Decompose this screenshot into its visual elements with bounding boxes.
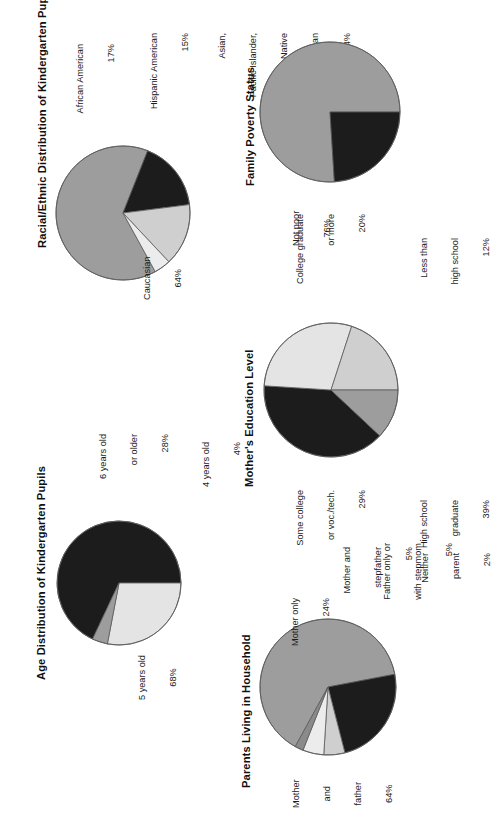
pie-label-mother-only-name: Mother only	[290, 598, 300, 672]
pie-label-mf-line3: father	[353, 779, 363, 808]
pie-mothers-education	[264, 323, 398, 457]
pie-label-6-years-line2: or older	[129, 434, 139, 512]
pie-label-np-line2: parent	[451, 553, 461, 617]
pie-label-np-value: 2%	[482, 553, 492, 617]
pie-label-below-poverty: Below poverty 24%	[392, 0, 495, 36]
chart-title-mothers-education: Mother's Education Level	[243, 350, 255, 487]
pie-label-some-college-line1: Some college	[295, 490, 305, 580]
pie-label-5-years-old-value: 68%	[168, 655, 178, 700]
pie-age-distribution	[57, 521, 181, 645]
pie-label-caucasian-value: 64%	[173, 257, 183, 300]
pie-label-4-years-old-value: 4%	[232, 442, 242, 512]
chart-title-parents-household: Parents Living in Household	[240, 634, 252, 788]
pie-label-hispanic-american-name: Hispanic American	[149, 33, 159, 137]
chart-title-family-poverty: Family Poverty Status	[244, 67, 256, 186]
pie-family-poverty	[260, 42, 400, 182]
pie-label-np-line1: Neither	[420, 553, 430, 617]
pie-label-6-years-value: 28%	[160, 434, 170, 512]
pie-slice-6-years-old-or-older	[107, 583, 181, 645]
pie-label-african-american: African American 17%	[54, 44, 137, 140]
pie-label-below-poverty-line2: poverty	[444, 0, 454, 36]
pie-label-6-years-or-older: 6 years old or older 28%	[77, 434, 191, 512]
pie-svg-mothers-education	[264, 323, 398, 457]
pie-label-mf-value: 64%	[384, 779, 394, 808]
pie-label-neither-parent: Neither parent 2%	[399, 553, 495, 617]
pie-label-mf-line1: Mother	[291, 779, 301, 808]
pie-label-college-graduate: College graduate or more 20%	[274, 214, 388, 318]
pie-svg-age-distribution	[57, 521, 181, 645]
pie-label-less-line1: Less than	[419, 238, 429, 318]
pie-label-caucasian: Caucasian 64%	[121, 257, 204, 300]
pie-label-african-american-name: African American	[75, 44, 85, 140]
pie-label-african-american-value: 17%	[106, 44, 116, 140]
pie-label-caucasian-name: Caucasian	[142, 257, 152, 300]
pie-label-fo-line1: Father only or	[382, 543, 392, 617]
pie-svg-family-poverty	[260, 42, 400, 182]
pie-label-college-value: 20%	[357, 214, 367, 318]
pie-label-ms-line1: Mother and	[342, 547, 352, 617]
pie-label-5-years-old-name: 5 years old	[137, 655, 147, 700]
pie-slice-below-poverty	[330, 112, 400, 182]
pie-label-asian-line1: Asian,	[217, 33, 227, 137]
chart-title-racial-ethnic: Racial/Ethnic Distribution of Kindergart…	[36, 0, 48, 248]
pie-label-5-years-old: 5 years old 68%	[116, 655, 199, 700]
pie-label-below-poverty-value: 24%	[475, 0, 485, 36]
pie-label-6-years-line1: 6 years old	[98, 434, 108, 512]
pie-label-mf-line2: and	[322, 779, 332, 808]
pie-label-mother-and-father: Mother and father 64%	[270, 779, 416, 808]
pie-label-less-line2: high school	[450, 238, 460, 318]
pie-label-below-poverty-line1: Below	[413, 0, 423, 36]
chart-title-age-distribution: Age Distribution of Kindergarten Pupils	[35, 466, 47, 680]
pie-label-less-value: 12%	[481, 238, 491, 318]
pie-label-4-years-old-name: 4 years old	[201, 442, 211, 512]
pie-label-less-than-high-school: Less than high school 12%	[398, 238, 495, 318]
pie-label-hispanic-american-value: 15%	[180, 33, 190, 137]
pie-label-college-line2: or more	[326, 214, 336, 318]
pie-label-college-line1: College graduate	[295, 214, 305, 318]
